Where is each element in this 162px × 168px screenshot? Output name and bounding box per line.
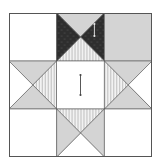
quilt-cell-r1c0	[9, 61, 57, 109]
quilt-cell-r0c1	[57, 13, 105, 61]
quilt-cell-r2c0	[9, 109, 57, 157]
quilt-cell-r0c0	[9, 13, 57, 61]
quilt-cell-r0c2	[104, 13, 152, 61]
quilt-cell-r2c1	[57, 109, 105, 157]
quilt-cell-r2c2	[104, 109, 152, 157]
quilt-cell-r1c2	[104, 61, 152, 109]
quilt-block-diagram	[9, 13, 152, 157]
